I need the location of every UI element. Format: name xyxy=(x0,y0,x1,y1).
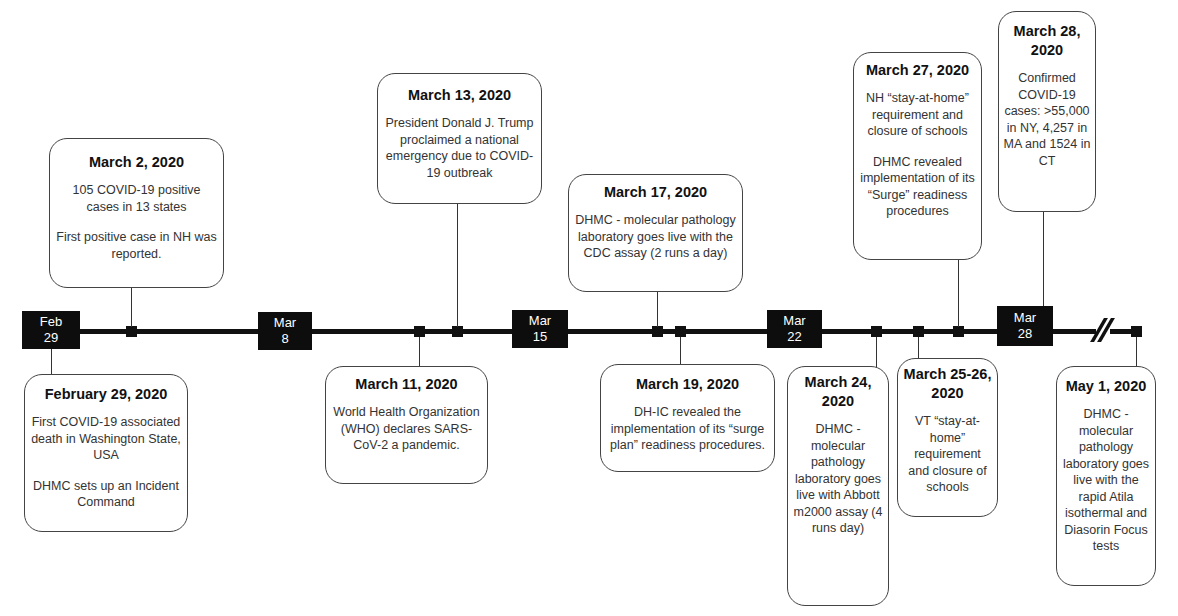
connector-mar-13 xyxy=(457,204,458,327)
event-title: March 27, 2020 xyxy=(858,61,977,80)
event-text: NH “stay-at-home” requirement and closur… xyxy=(858,90,977,140)
date-block-month: Mar xyxy=(767,313,822,329)
event-marker-mar-2 xyxy=(126,326,137,337)
event-card-mar-28: March 28, 2020 Confirmed COVID-19 cases:… xyxy=(998,11,1096,212)
event-text: DHMC - molecular pathology laboratory go… xyxy=(575,212,736,262)
event-marker-may-1 xyxy=(1131,326,1142,337)
date-block-month: Feb xyxy=(22,314,80,330)
event-text: DH-IC revealed the implementation of its… xyxy=(607,404,768,454)
event-card-mar-27: March 27, 2020 NH “stay-at-home” require… xyxy=(853,52,982,260)
event-description: Confirmed COVID-19 cases: >55,000 in NY,… xyxy=(1002,70,1092,169)
connector-may-1 xyxy=(1136,337,1137,367)
connector-mar-28 xyxy=(1043,211,1044,306)
date-block-day: 15 xyxy=(512,329,568,345)
date-block-month: Mar xyxy=(512,313,568,329)
event-title: March 25-26, 2020 xyxy=(902,365,993,403)
date-block-mar-28: Mar 28 xyxy=(997,306,1053,346)
event-title: March 13, 2020 xyxy=(384,86,535,105)
event-text: First positive case in NH was reported. xyxy=(56,229,217,262)
event-description: DH-IC revealed the implementation of its… xyxy=(607,404,768,454)
date-block-day: 28 xyxy=(997,326,1053,342)
event-title: March 2, 2020 xyxy=(56,153,217,172)
event-card-mar-2: March 2, 2020 105 COVID-19 positive case… xyxy=(49,138,224,288)
date-block-mar-22: Mar 22 xyxy=(767,310,822,348)
event-marker-mar-19 xyxy=(675,326,686,337)
event-text: President Donald J. Trump proclaimed a n… xyxy=(384,115,535,181)
connector-mar-17 xyxy=(657,291,658,327)
event-card-feb-29: February 29, 2020 First COVID-19 associa… xyxy=(24,374,188,532)
date-block-month: Mar xyxy=(258,315,312,331)
event-text: World Health Organization (WHO) declares… xyxy=(332,404,481,454)
event-title: March 11, 2020 xyxy=(332,375,481,394)
event-card-mar-19: March 19, 2020 DH-IC revealed the implem… xyxy=(600,364,775,472)
date-block-day: 22 xyxy=(767,329,822,345)
event-description: President Donald J. Trump proclaimed a n… xyxy=(384,115,535,181)
event-description: DHMC - molecular pathology laboratory go… xyxy=(792,421,884,537)
event-card-may-1: May 1, 2020 DHMC - molecular pathology l… xyxy=(1056,366,1156,586)
date-block-month: Mar xyxy=(997,310,1053,326)
event-title: March 24, 2020 xyxy=(792,373,884,411)
event-text: DHMC revealed implementation of its “Sur… xyxy=(858,154,977,220)
event-text: 105 COVID-19 positive cases in 13 states xyxy=(56,182,217,215)
connector-mar-2 xyxy=(131,287,132,327)
event-text: DHMC - molecular pathology laboratory go… xyxy=(792,421,884,537)
date-block-feb-29: Feb 29 xyxy=(22,311,80,349)
event-text: First COVID-19 associated death in Washi… xyxy=(31,414,181,464)
event-marker-mar-17 xyxy=(652,326,663,337)
connector-mar-19 xyxy=(680,337,681,365)
event-title: March 19, 2020 xyxy=(607,375,768,394)
event-description: NH “stay-at-home” requirement and closur… xyxy=(858,90,977,220)
event-title: May 1, 2020 xyxy=(1060,377,1152,396)
event-card-mar-24: March 24, 2020 DHMC - molecular patholog… xyxy=(787,366,889,606)
event-title: February 29, 2020 xyxy=(31,385,181,404)
event-description: DHMC - molecular pathology laboratory go… xyxy=(575,212,736,262)
connector-feb-29 xyxy=(51,349,52,375)
event-marker-mar-24 xyxy=(871,326,882,337)
date-block-mar-15: Mar 15 xyxy=(512,310,568,348)
date-block-day: 8 xyxy=(258,331,312,347)
connector-mar-24 xyxy=(876,337,877,367)
event-text: DHMC sets up an Incident Command xyxy=(31,478,181,511)
event-description: 105 COVID-19 positive cases in 13 states… xyxy=(56,182,217,262)
event-description: VT “stay-at-home” requirement and closur… xyxy=(902,413,993,496)
event-card-mar-17: March 17, 2020 DHMC - molecular patholog… xyxy=(568,174,743,292)
event-text: Confirmed COVID-19 cases: >55,000 in NY,… xyxy=(1002,70,1092,169)
event-text: VT “stay-at-home” requirement and closur… xyxy=(902,413,993,496)
event-title: March 28, 2020 xyxy=(1002,22,1092,60)
date-block-day: 29 xyxy=(22,330,80,346)
event-card-mar-11: March 11, 2020 World Health Organization… xyxy=(325,366,488,484)
event-description: First COVID-19 associated death in Washi… xyxy=(31,414,181,511)
connector-mar-11 xyxy=(419,337,420,367)
event-description: DHMC - molecular pathology laboratory go… xyxy=(1060,406,1152,555)
event-marker-mar-11 xyxy=(414,326,425,337)
event-text: DHMC - molecular pathology laboratory go… xyxy=(1060,406,1152,555)
event-marker-mar-25-26 xyxy=(913,326,924,337)
connector-mar-27 xyxy=(958,258,959,327)
event-marker-mar-13 xyxy=(452,326,463,337)
connector-mar-25-26 xyxy=(918,337,919,359)
event-card-mar-13: March 13, 2020 President Donald J. Trump… xyxy=(377,73,542,204)
event-card-mar-25-26: March 25-26, 2020 VT “stay-at-home” requ… xyxy=(897,358,998,517)
event-marker-mar-27 xyxy=(953,326,964,337)
event-title: March 17, 2020 xyxy=(575,183,736,202)
event-description: World Health Organization (WHO) declares… xyxy=(332,404,481,454)
date-block-mar-8: Mar 8 xyxy=(258,312,312,350)
